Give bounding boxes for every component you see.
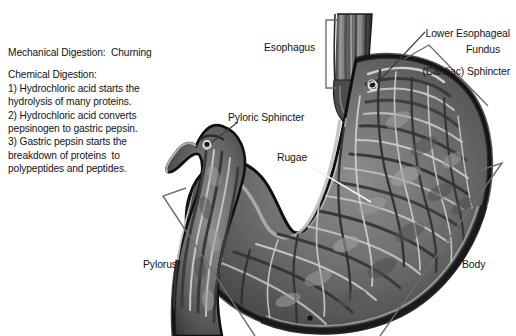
body-bracket (380, 163, 502, 336)
esophagus-structure (334, 14, 373, 128)
label-pylorus: Pylorus (143, 259, 177, 272)
note-line: pepsinogen to gastric pepsin. (8, 122, 198, 135)
note-line: breakdown of proteins to (8, 149, 198, 162)
label-line: Lower Esophageal (422, 28, 510, 41)
stomach-anatomy-figure: Mechanical Digestion: Churning Chemical … (0, 0, 516, 336)
label-fundus: Fundus (466, 44, 500, 57)
digestion-notes: Mechanical Digestion: Churning Chemical … (8, 46, 198, 176)
pyloric-sphincter-leader-line (211, 122, 238, 143)
les-pin (369, 82, 377, 90)
serosa-marker-dot (307, 315, 312, 320)
pyloric-sphincter-pin (203, 141, 211, 149)
cardiac-orifice (368, 80, 376, 88)
note-line: 2) Hydrochloric acid converts (8, 109, 198, 122)
note-line: Chemical Digestion: (8, 68, 198, 81)
label-esophagus: Esophagus (264, 42, 315, 55)
rugae-folds (214, 68, 475, 336)
label-body: Body (462, 259, 485, 272)
note-line: 1) Hydrochloric acid starts the (8, 82, 198, 95)
les-leader-line (377, 32, 425, 83)
note-line: 3) Gastric pepsin starts the (8, 135, 198, 148)
note-spacer (8, 59, 198, 68)
label-rugae: Rugae (277, 152, 307, 165)
pyloric-orifice (204, 141, 210, 147)
note-line: Mechanical Digestion: Churning (8, 46, 198, 59)
note-line: hydrolysis of many proteins. (8, 95, 198, 108)
note-line: polypeptides and peptides. (8, 162, 198, 175)
rugae-leader-line (310, 166, 371, 202)
esophagus-bracket (326, 20, 337, 88)
label-pyloric-sphincter: Pyloric Sphincter (228, 112, 304, 125)
label-line: (Cardiac) Sphincter (422, 66, 510, 79)
